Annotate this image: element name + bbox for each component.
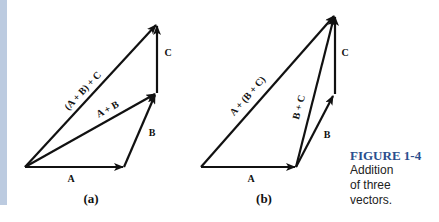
caption-line: of three [350,178,439,193]
vector-ab-plus-c [25,25,156,167]
label-a: A [247,173,255,184]
vector-b-plus-c [296,17,334,167]
figure-number: FIGURE 1-4 [350,148,439,163]
label-c: C [164,47,171,58]
figure-caption: FIGURE 1-4 Addition of three vectors. [350,148,439,208]
caption-line: Addition [350,163,439,178]
caption-line: vectors. [350,193,439,208]
panel-a: A B C A + B (A + B) + C (a) [25,25,172,206]
label-b: B [324,129,331,140]
label-ab-plus-c: (A + B) + C [62,69,104,113]
label-b-plus-c: B + C [290,94,307,121]
panel-a-sublabel: (a) [83,191,98,206]
label-c: C [341,47,348,58]
label-a: A [67,173,75,184]
panel-b: A B C B + C A + (B + C) (b) [201,16,349,206]
label-b: B [149,127,156,138]
panel-b-sublabel: (b) [256,191,272,206]
vector-a-plus-b [25,94,155,167]
